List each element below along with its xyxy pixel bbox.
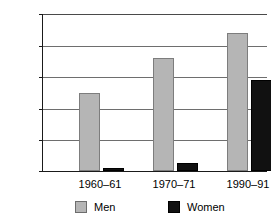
legend-label-men: Men [94, 201, 115, 213]
bar-men-1970-71 [153, 58, 174, 171]
legend-label-women: Women [187, 201, 225, 213]
y-tick-mark [39, 140, 43, 141]
bar-women-1990-91 [251, 80, 271, 171]
legend-swatch-men-icon [75, 201, 87, 213]
x-axis: 1960–61 1970–71 1990–91 [42, 178, 267, 194]
plot-area [42, 14, 267, 172]
y-tick-mark [39, 46, 43, 47]
gridline-50000 [43, 14, 267, 15]
bar-men-1990-91 [227, 33, 248, 171]
y-tick-mark [39, 77, 43, 78]
chart-legend: Men Women [0, 201, 271, 221]
y-tick-mark [39, 14, 43, 15]
y-tick-mark [39, 171, 43, 172]
bar-women-1970-71 [177, 163, 198, 171]
y-tick-mark [39, 109, 43, 110]
bar-women-1960-61 [103, 168, 124, 171]
x-tick-label-1: 1960–61 [79, 178, 122, 190]
legend-swatch-women-icon [168, 201, 180, 213]
x-tick-label-2: 1970–71 [153, 178, 196, 190]
bar-men-1960-61 [79, 93, 100, 172]
x-tick-label-3: 1990–91 [227, 178, 270, 190]
legend-entry-men: Men [75, 201, 115, 213]
bar-chart-figure: 50,000 40,000 30,000 20,000 10,000 0 196 [0, 0, 271, 224]
legend-entry-women: Women [168, 201, 225, 213]
